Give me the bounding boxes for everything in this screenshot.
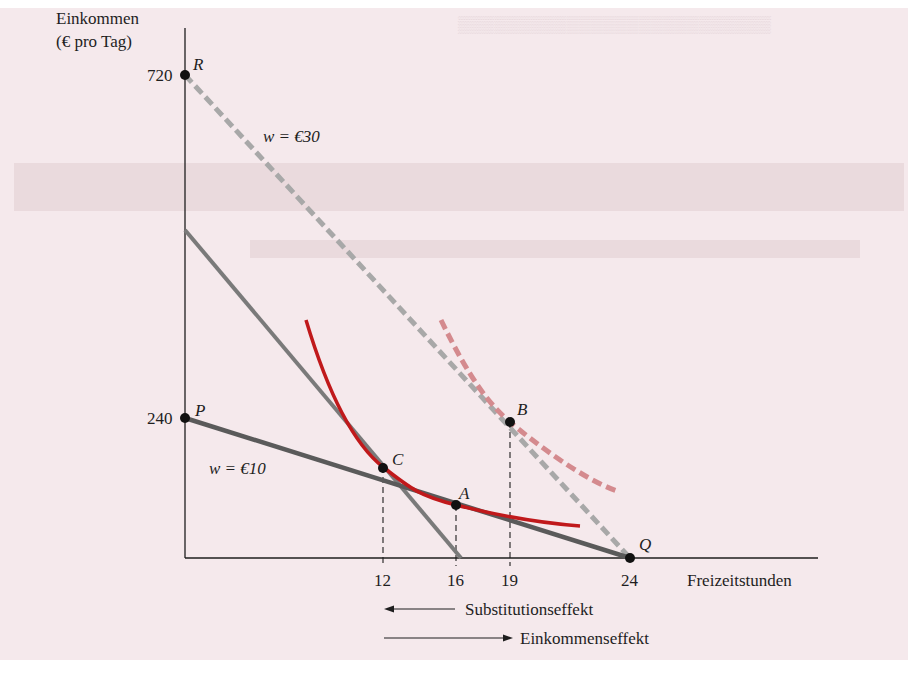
x-tick-16: 16 (447, 572, 464, 589)
x-tick-12: 12 (374, 572, 391, 589)
y-tick-240: 240 (147, 410, 173, 427)
substitution-arrowhead-icon (384, 606, 394, 613)
x-axis-title: Freizeitstunden (687, 572, 792, 589)
label-A: A (459, 485, 469, 502)
label-C: C (392, 451, 403, 468)
wage-label-w30: w = €30 (263, 128, 320, 145)
wage-label-w10: w = €10 (209, 460, 266, 477)
income-effect-label: Einkommenseffekt (520, 630, 649, 647)
point-B (505, 417, 515, 427)
x-tick-24: 24 (621, 572, 638, 589)
point-R (180, 70, 190, 80)
point-P (180, 413, 190, 423)
y-tick-720: 720 (147, 67, 173, 84)
y-axis-title-line1: Einkommen (56, 10, 139, 27)
point-Q (625, 553, 635, 563)
income-arrowhead-icon (503, 635, 513, 642)
x-tick-19: 19 (501, 572, 518, 589)
substitution-effect-label: Substitutionseffekt (465, 601, 593, 618)
label-P: P (195, 402, 205, 419)
label-Q: Q (639, 536, 651, 553)
point-C (378, 463, 388, 473)
label-R: R (193, 56, 203, 73)
label-B: B (517, 401, 527, 418)
indifference-curve-B (441, 320, 617, 491)
y-axis-title-line2: (€ pro Tag) (56, 33, 132, 50)
indifference-curve-AC (306, 320, 580, 526)
budget-line-compensated (185, 230, 461, 558)
